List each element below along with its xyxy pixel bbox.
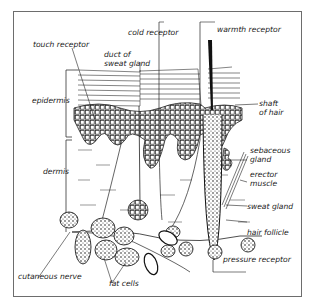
label-warmth-receptor: warmth receptor (217, 25, 281, 34)
label-sebaceous-line2: gland (250, 155, 271, 164)
label-duct-line2: sweat gland (104, 59, 150, 68)
label-touch-receptor: touch receptor (33, 40, 89, 49)
label-shaft-line1: shaft (259, 99, 278, 108)
label-fat-cells: fat cells (109, 279, 139, 288)
label-cold-receptor: cold receptor (128, 28, 178, 37)
label-epidermis: epidermis (32, 96, 70, 105)
label-pressure-receptor: pressure receptor (223, 255, 291, 264)
label-cutaneous-nerve: cutaneous nerve (18, 272, 82, 281)
label-dermis: dermis (43, 167, 69, 176)
label-hair-follicle: hair follicle (247, 228, 289, 237)
hair-follicle (203, 115, 222, 260)
label-erector-line1: erector (250, 170, 277, 179)
label-sebaceous-line1: sebaceous (250, 146, 290, 155)
epidermis-bracket (66, 70, 78, 232)
hair-shaft (208, 40, 213, 110)
label-shaft-line2: of hair (259, 108, 283, 117)
label-duct-line1: duct of (104, 50, 131, 59)
label-erector-line2: muscle (250, 179, 277, 188)
label-sweat-gland: sweat gland (247, 202, 293, 211)
